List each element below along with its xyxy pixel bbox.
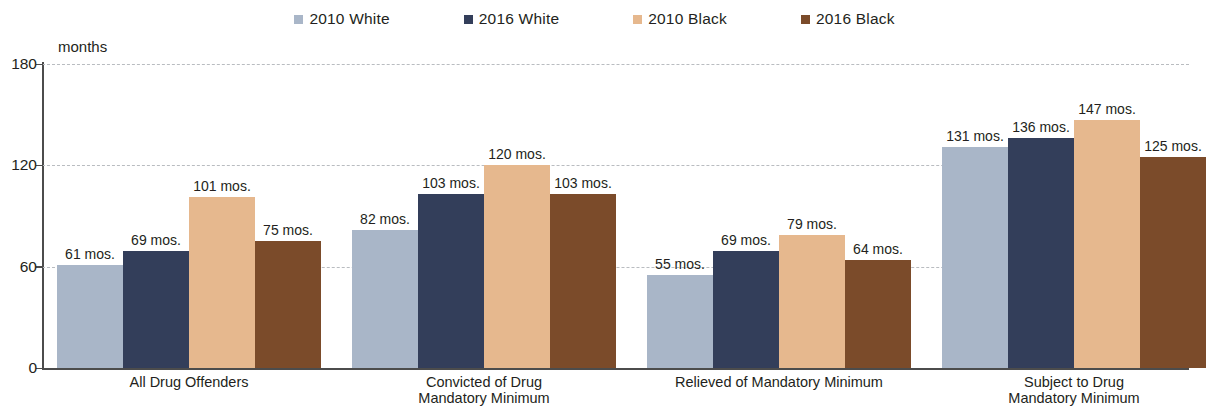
- bar[interactable]: 82 mos.: [352, 230, 418, 368]
- bar[interactable]: 103 mos.: [418, 194, 484, 368]
- gridline-180: [42, 64, 1189, 65]
- bar[interactable]: 147 mos.: [1074, 120, 1140, 368]
- bar-value-label: 55 mos.: [655, 256, 705, 272]
- bar[interactable]: 75 mos.: [255, 241, 321, 368]
- bar-value-label: 69 mos.: [131, 232, 181, 248]
- category-label-line: Mandatory Minimum: [322, 390, 646, 406]
- category-label: All Drug Offenders: [27, 374, 351, 390]
- y-tick-mark-120: [36, 165, 43, 167]
- y-axis-line: [42, 62, 44, 369]
- category-label-line: Relieved of Mandatory Minimum: [617, 374, 941, 390]
- y-tick-label-60: 60: [3, 258, 37, 276]
- bar[interactable]: 120 mos.: [484, 165, 550, 368]
- y-tick-label-180: 180: [3, 55, 37, 73]
- bar-value-label: 125 mos.: [1144, 138, 1202, 154]
- x-axis-baseline: [42, 368, 1189, 370]
- bar-value-label: 61 mos.: [65, 246, 115, 262]
- category-label: Subject to DrugMandatory Minimum: [912, 374, 1210, 406]
- bar-value-label: 103 mos.: [554, 175, 612, 191]
- y-axis-units-label: months: [58, 38, 107, 55]
- bar-value-label: 131 mos.: [946, 128, 1004, 144]
- bar[interactable]: 131 mos.: [942, 147, 1008, 368]
- bar-value-label: 103 mos.: [422, 175, 480, 191]
- bar-value-label: 136 mos.: [1012, 119, 1070, 135]
- bar-value-label: 75 mos.: [263, 222, 313, 238]
- bar[interactable]: 79 mos.: [779, 235, 845, 368]
- bar[interactable]: 125 mos.: [1140, 157, 1206, 368]
- bar-value-label: 69 mos.: [721, 232, 771, 248]
- bar[interactable]: 69 mos.: [123, 251, 189, 368]
- bar[interactable]: 69 mos.: [713, 251, 779, 368]
- category-label-line: Mandatory Minimum: [912, 390, 1210, 406]
- bar-value-label: 120 mos.: [488, 146, 546, 162]
- bar[interactable]: 55 mos.: [647, 275, 713, 368]
- y-tick-mark-60: [36, 266, 43, 268]
- category-label-line: Subject to Drug: [912, 374, 1210, 390]
- category-label: Convicted of DrugMandatory Minimum: [322, 374, 646, 406]
- bar[interactable]: 136 mos.: [1008, 138, 1074, 368]
- bar-value-label: 79 mos.: [787, 216, 837, 232]
- category-label-line: All Drug Offenders: [27, 374, 351, 390]
- bar[interactable]: 101 mos.: [189, 197, 255, 368]
- bar-value-label: 101 mos.: [193, 178, 251, 194]
- y-tick-mark-180: [36, 64, 43, 66]
- bar[interactable]: 64 mos.: [845, 260, 911, 368]
- y-tick-label-120: 120: [3, 156, 37, 174]
- bar[interactable]: 103 mos.: [550, 194, 616, 368]
- bar-value-label: 82 mos.: [360, 211, 410, 227]
- category-label: Relieved of Mandatory Minimum: [617, 374, 941, 390]
- bar-value-label: 64 mos.: [853, 241, 903, 257]
- y-tick-mark-0: [36, 368, 43, 370]
- bar-value-label: 147 mos.: [1078, 101, 1136, 117]
- category-label-line: Convicted of Drug: [322, 374, 646, 390]
- bar[interactable]: 61 mos.: [57, 265, 123, 368]
